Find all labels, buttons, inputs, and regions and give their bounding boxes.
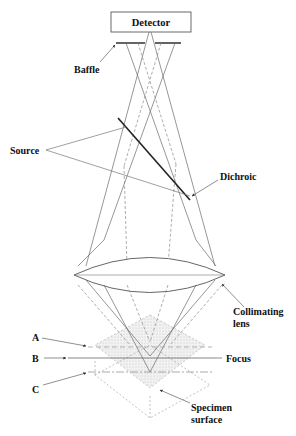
specimen-surface: Specimen surface — [160, 390, 233, 425]
baffle-label: Baffle — [74, 64, 100, 75]
source: Source — [10, 127, 190, 196]
lens-label-line1: Collimating — [233, 306, 284, 317]
detector: Detector — [111, 12, 191, 32]
source-label: Source — [10, 145, 40, 156]
plane-b-label: B — [32, 353, 39, 364]
detector-label: Detector — [132, 17, 171, 28]
focus-label: Focus — [226, 353, 251, 364]
lens-label-line2: lens — [233, 318, 250, 329]
plane-a-label: A — [32, 332, 40, 343]
specimen-label-line1: Specimen — [191, 402, 233, 413]
plane-c-label: C — [32, 384, 39, 395]
specimen-label-line2: surface — [191, 414, 223, 425]
dichroic-mirror: Dichroic — [118, 118, 257, 200]
dichroic-label: Dichroic — [220, 171, 257, 182]
confocal-diagram: Detector Baffle Dichroic Source Co — [0, 0, 296, 436]
